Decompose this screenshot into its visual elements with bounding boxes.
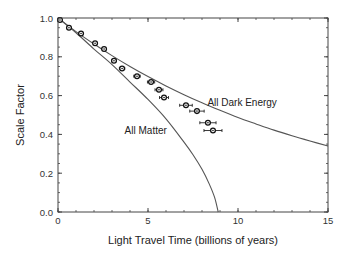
marker-center [113,60,115,62]
marker-center [103,48,105,50]
marker-center [196,110,198,112]
data-point [119,66,124,71]
x-tick-label: 0 [55,215,60,226]
y-tick-label: 0.4 [40,129,53,140]
data-point [155,87,163,92]
all-matter-curve [58,18,218,212]
model-curves [58,18,328,212]
data-point [160,95,169,100]
y-tick-label: 0.8 [40,51,53,62]
y-tick-label: 0.2 [40,168,53,179]
data-point [67,25,72,30]
data-point [102,47,107,52]
data-point [147,80,154,85]
marker-center [185,105,187,107]
data-point [93,41,98,46]
marker-center [94,42,96,44]
all-dark-energy-curve [58,18,328,146]
marker-center [121,68,123,70]
x-tick-label: 5 [145,215,150,226]
data-point [204,128,222,133]
x-tick-label: 10 [233,215,244,226]
marker-center [59,19,61,21]
data-points [58,18,222,133]
marker-center [68,27,70,29]
marker-center [150,81,152,83]
all-dark-energy-label: All Dark Energy [207,97,276,108]
x-axis-title: Light Travel Time (billions of years) [108,234,278,246]
marker-center [136,75,138,77]
tick-labels: 0510150.00.20.40.60.81.0 [40,13,334,227]
data-point [79,31,84,36]
marker-center [158,89,160,91]
marker-center [163,97,165,99]
y-tick-label: 0.0 [40,207,53,218]
data-point [190,109,204,114]
marker-center [212,130,214,132]
data-point [134,74,140,79]
curve-labels: All Dark EnergyAll Matter [125,97,277,135]
marker-center [207,122,209,124]
marker-center [80,33,82,35]
y-tick-label: 0.6 [40,90,53,101]
data-point [112,58,117,63]
scale-factor-chart: 0510150.00.20.40.60.81.0 All Dark Energy… [0,0,349,257]
data-point [180,103,193,108]
all-matter-label: All Matter [125,125,168,136]
data-point [200,120,216,125]
y-tick-label: 1.0 [40,13,53,24]
x-tick-label: 15 [323,215,334,226]
y-axis-title: Scale Factor [14,84,26,146]
